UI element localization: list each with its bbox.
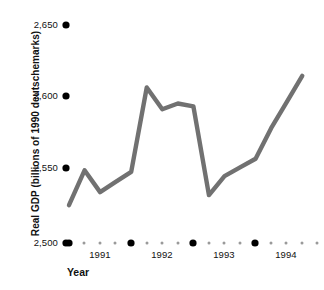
x-axis-minor-dot bbox=[316, 242, 319, 245]
y-tick-dot-2550 bbox=[62, 164, 69, 171]
y-axis-tick-dots bbox=[62, 21, 69, 246]
x-axis-major-dot bbox=[65, 239, 72, 246]
x-axis-minor-dot bbox=[301, 242, 304, 245]
x-tick-label-1993: 1993 bbox=[202, 250, 246, 260]
x-axis-minor-dot bbox=[270, 242, 273, 245]
x-axis-minor-dot bbox=[285, 242, 288, 245]
x-axis-minor-dot bbox=[114, 242, 117, 245]
gdp-line-series bbox=[69, 76, 302, 205]
x-axis-minor-dot bbox=[177, 242, 180, 245]
y-tick-dot-2650 bbox=[62, 21, 69, 28]
x-tick-label-1994: 1994 bbox=[264, 250, 308, 260]
y-tick-dot-2600 bbox=[62, 92, 69, 99]
x-axis-minor-dot bbox=[99, 242, 102, 245]
x-axis-minor-dot bbox=[239, 242, 242, 245]
x-tick-label-1991: 1991 bbox=[78, 250, 122, 260]
y-axis-title: Real GDP (billions of 1990 deutschemarks… bbox=[30, 21, 41, 247]
x-axis-minor-dot bbox=[208, 242, 211, 245]
chart-container: 2,650 2,600 2,550 2,500 1991 1992 1993 1… bbox=[0, 0, 324, 290]
x-axis-dotted-baseline bbox=[65, 239, 318, 246]
x-tick-label-1992: 1992 bbox=[140, 250, 184, 260]
x-axis-major-dot bbox=[127, 239, 134, 246]
x-axis-minor-dot bbox=[83, 242, 86, 245]
x-axis-minor-dot bbox=[161, 242, 164, 245]
x-axis-major-dot bbox=[189, 239, 196, 246]
x-axis-minor-dot bbox=[223, 242, 226, 245]
x-axis-title: Year bbox=[48, 266, 108, 278]
x-axis-major-dot bbox=[251, 239, 258, 246]
x-axis-minor-dot bbox=[146, 242, 149, 245]
